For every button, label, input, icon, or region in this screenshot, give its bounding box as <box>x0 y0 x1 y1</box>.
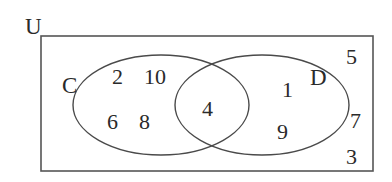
element-d-only: 1 <box>282 77 293 102</box>
set-c-label: C <box>62 73 77 98</box>
element-outside: 7 <box>350 108 361 133</box>
element-c-only: 10 <box>144 64 166 89</box>
venn-diagram: U C D 2 10 6 8 4 1 9 5 7 3 <box>0 0 392 182</box>
element-outside: 3 <box>346 144 357 169</box>
element-c-only: 8 <box>139 109 150 134</box>
element-c-only: 2 <box>112 64 123 89</box>
element-outside: 5 <box>346 44 357 69</box>
set-d-label: D <box>310 65 327 90</box>
universe-label: U <box>25 14 42 39</box>
element-intersection: 4 <box>202 96 213 121</box>
element-c-only: 6 <box>107 109 118 134</box>
element-d-only: 9 <box>277 119 288 144</box>
